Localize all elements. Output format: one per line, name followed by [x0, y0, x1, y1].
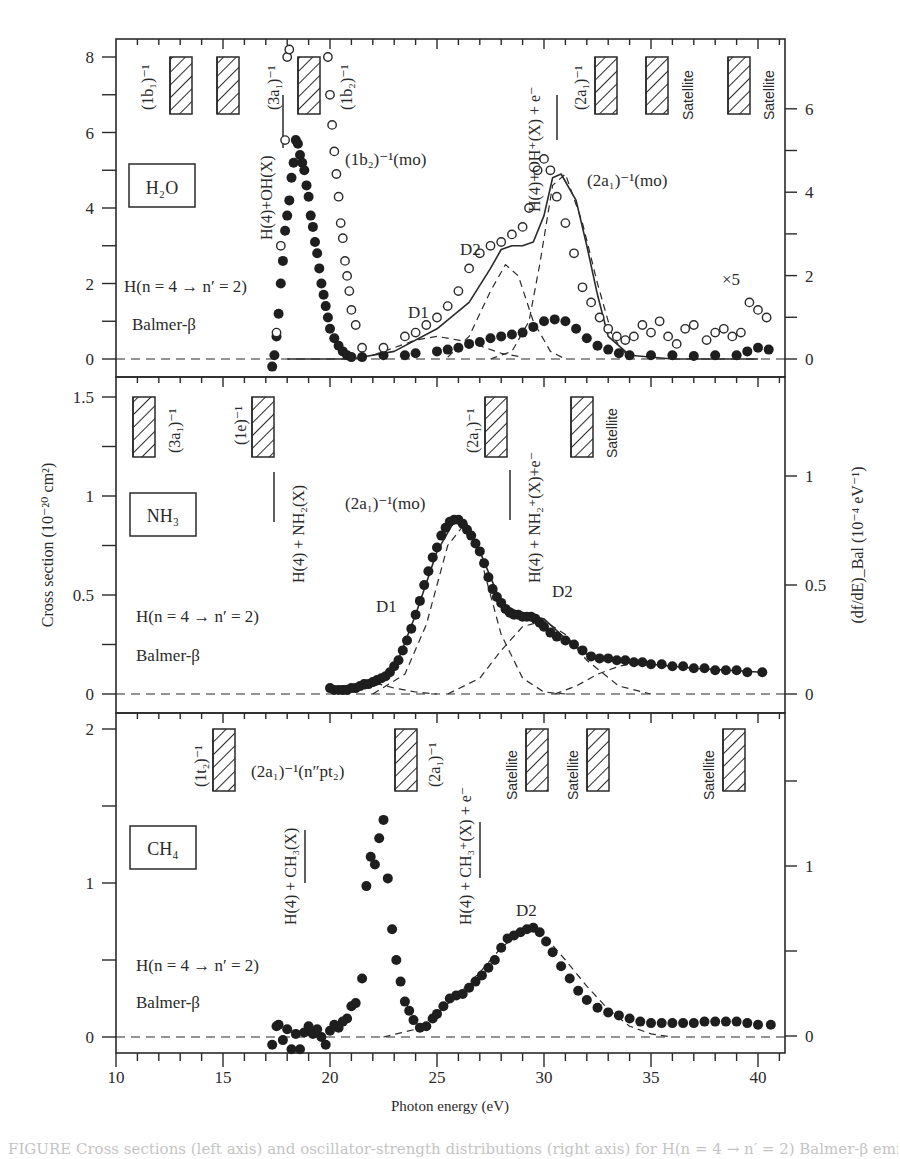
y-tick-labels-left: 0 2 4 6 8 0 0.5 1 1.5 0 1 2: [73, 48, 95, 1047]
y-tick: 1: [86, 487, 95, 506]
ch4-2a1-threshold: (2a₁)⁻¹: [426, 742, 444, 787]
nh3-3a1-threshold: (3a₁)⁻¹: [166, 408, 184, 453]
ch4-d2-label: D2: [516, 901, 537, 920]
h2o-x5-label: ×5: [722, 270, 740, 289]
nh3-d1-label: D1: [376, 597, 397, 616]
nh3-label: NH₃: [147, 506, 179, 526]
h2o-label: H₂O: [146, 178, 178, 198]
zero-baselines: [116, 359, 785, 1037]
rotated-annotations: (1b₁)⁻¹ (3a₁)⁻¹ (1b₂)⁻¹ (2a₁)⁻¹ Satellit…: [139, 64, 777, 925]
axis-ticks: [102, 39, 797, 1067]
ch4-satellite-2: Satellite: [565, 750, 581, 800]
y-tick: 0: [86, 1028, 95, 1047]
h2o-mo-1b2-label: (1b₂)⁻¹(mo): [345, 150, 426, 169]
nh3-1e-threshold: (1e)⁻¹: [232, 406, 250, 445]
h2o-1b1-threshold: (1b₁)⁻¹: [139, 64, 157, 110]
y-tick: 1: [86, 874, 95, 893]
nh3-d2-label: D2: [552, 582, 573, 601]
h2o-mo-2a1-label: (2a₁)⁻¹(mo): [587, 171, 667, 190]
ch4-balmer-label: Balmer-β: [136, 993, 200, 1012]
peak-annotations: (1b₂)⁻¹(mo) (2a₁)⁻¹(mo) D1 D2 ×5 (2a₁)⁻¹…: [251, 150, 740, 920]
x-tick-15: 15: [215, 1068, 232, 1087]
nh3-2a1-threshold: (2a₁)⁻¹: [464, 408, 482, 453]
ch4-transition-label: H(n = 4 → n′ = 2): [136, 956, 259, 975]
y-tick-right: 0: [805, 685, 814, 704]
chart-canvas: 10 15 20 25 30 35 40 Photon energy (eV) …: [0, 0, 900, 1159]
y-axis-label-right: (df/dE)_Bal (10⁻⁴ eV⁻¹): [849, 467, 867, 624]
h2o-balmer-label: Balmer-β: [132, 315, 196, 334]
nh3-transition-label: H(n = 4 → n′ = 2): [136, 607, 259, 626]
y-tick-right: 0: [805, 350, 814, 369]
ch4-satellite-3: Satellite: [701, 750, 717, 800]
h2o-3a1-threshold: (3a₁)⁻¹: [265, 65, 283, 110]
h2o-transition-label: H(n = 4 → n′ = 2): [124, 277, 247, 296]
nh3-mo-2a1-label: (2a₁)⁻¹(mo): [345, 494, 425, 513]
nh3-satellite: Satellite: [604, 408, 620, 458]
y-tick: 8: [86, 48, 95, 67]
threshold-hatches: [133, 57, 750, 791]
x-tick-20: 20: [322, 1068, 339, 1087]
nh3-dissociation-neutral: H(4) + NH₂(X): [290, 485, 308, 583]
h2o-2a1-threshold: (2a₁)⁻¹: [572, 65, 590, 110]
y-tick: 2: [86, 275, 95, 294]
ch4-dissociation-neutral: H(4) + CH₃(X): [282, 828, 300, 925]
y-tick-right: 6: [805, 100, 814, 119]
y-tick: 4: [86, 199, 95, 218]
h2o-1b2-threshold: (1b₂)⁻¹: [338, 64, 356, 110]
x-tick-10: 10: [108, 1068, 125, 1087]
x-tick-35: 35: [643, 1068, 660, 1087]
nh3-balmer-label: Balmer-β: [136, 646, 200, 665]
x-tick-25: 25: [429, 1068, 446, 1087]
series-nh3-high-energy-component: [555, 662, 651, 694]
nh3-dissociation-ion: H(4) + NH₂⁺(X)+e⁻: [526, 452, 544, 583]
y-tick: 1.5: [73, 388, 94, 407]
y-axis-label-left: Cross section (10⁻²⁰ cm²): [39, 463, 57, 627]
h2o-d2-label: D2: [460, 240, 481, 259]
ch4-dissociation-ion: H(4) + CH₃⁺(X) + e⁻: [457, 787, 475, 925]
x-tick-40: 40: [750, 1068, 767, 1087]
y-tick-right: 2: [805, 267, 814, 286]
series-h2o-filled-cross-section-: [267, 135, 774, 372]
molecule-labels: H₂O NH₃ CH₄: [129, 164, 196, 869]
ch4-label: CH₄: [147, 839, 178, 859]
h2o-dissociation-ion: H(4)+OH⁺(X) + e⁻: [526, 86, 544, 212]
x-axis-label: Photon energy (eV): [391, 1098, 509, 1115]
ch4-rydberg-label: (2a₁)⁻¹(n″pt₂): [251, 762, 344, 781]
x-tick-labels: 10 15 20 25 30 35 40: [108, 1068, 767, 1087]
y-tick-labels-right: 0 2 4 6 0 0.5 1 0 1: [805, 100, 826, 1046]
y-tick: 2: [86, 720, 95, 739]
y-tick-right: 0: [805, 1027, 814, 1046]
y-tick-right: 1: [805, 467, 814, 486]
transition-labels: H(n = 4 → n′ = 2) Balmer-β H(n = 4 → n′ …: [124, 277, 259, 1012]
ch4-1t2-threshold: (1t₂)⁻¹: [192, 745, 210, 787]
h2o-d1-label: D1: [408, 303, 429, 322]
y-tick-right: 0.5: [805, 576, 826, 595]
x-tick-30: 30: [536, 1068, 553, 1087]
figure-caption: FIGURE Cross sections (left axis) and os…: [8, 1140, 898, 1158]
y-tick: 6: [86, 124, 95, 143]
h2o-satellite-1: Satellite: [680, 70, 696, 120]
h2o-satellite-2: Satellite: [761, 70, 777, 120]
y-tick-right: 1: [805, 857, 814, 876]
y-tick: 0: [86, 685, 95, 704]
series-ch4-filled-cross-section-: [267, 815, 776, 1054]
ch4-satellite-1: Satellite: [504, 750, 520, 800]
figure: 10 15 20 25 30 35 40 Photon energy (eV) …: [0, 0, 900, 1159]
y-tick: 0.5: [73, 586, 94, 605]
y-tick-right: 4: [805, 183, 814, 202]
h2o-dissociation-neutral: H(4)+OH(X): [258, 155, 276, 240]
y-tick: 0: [86, 350, 95, 369]
